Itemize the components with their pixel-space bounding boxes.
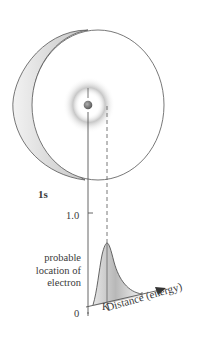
y-axis-tick-label: 1.0	[66, 211, 79, 222]
y-axis-label-line-1: probable	[34, 252, 81, 265]
y-axis-label: probable location of electron	[34, 252, 81, 290]
origin-label: 0	[74, 309, 79, 320]
orbital-label: 1s	[38, 189, 48, 200]
nucleus	[84, 101, 93, 110]
orbital-diagram	[0, 0, 212, 347]
y-axis-label-line-3: electron	[34, 277, 81, 290]
y-axis-label-line-2: location of	[34, 265, 81, 278]
